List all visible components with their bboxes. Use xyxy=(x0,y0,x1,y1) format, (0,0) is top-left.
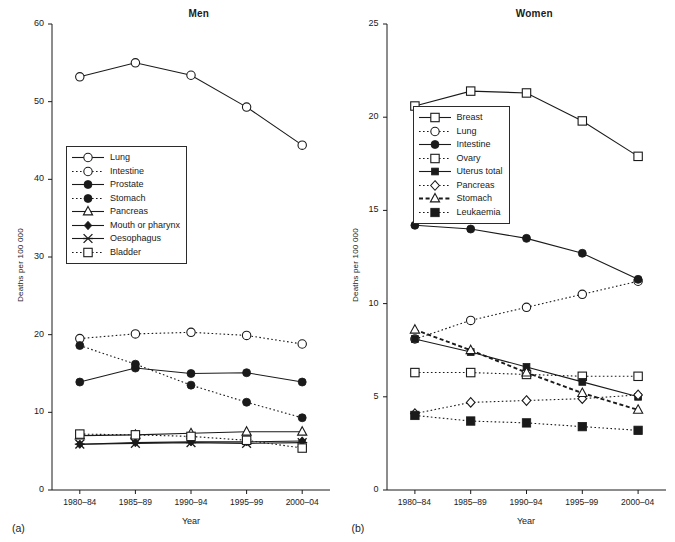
legend-item: Ovary xyxy=(418,152,503,166)
y-tick-label: 0 xyxy=(18,484,44,494)
y-axis-label-men: Deaths per 100 000 xyxy=(16,228,25,302)
legend-label: Mouth or pharynx xyxy=(105,221,180,230)
legend-swatch-icon xyxy=(71,232,105,245)
legend-item: Pancreas xyxy=(418,179,503,193)
legend-men: LungIntestineProstateStomachPancreasMout… xyxy=(66,146,187,264)
legend-swatch-icon xyxy=(71,151,105,164)
panel-women: Women Deaths per 100 000 Year BreastLung… xyxy=(338,0,675,542)
x-tick-label: 1990–94 xyxy=(498,497,554,507)
y-tick-label: 20 xyxy=(353,111,379,121)
legend-swatch-icon xyxy=(418,206,452,219)
legend-item: Prostate xyxy=(71,178,180,192)
legend-swatch-icon xyxy=(418,152,452,165)
x-tick-label: 1995–99 xyxy=(219,497,275,507)
legend-label: Stomach xyxy=(452,194,493,203)
y-tick-label: 25 xyxy=(353,18,379,28)
legend-label: Oesophagus xyxy=(105,234,161,243)
legend-label: Bladder xyxy=(105,248,141,257)
x-axis-label-women: Year xyxy=(486,516,566,526)
legend-swatch-icon xyxy=(418,179,452,192)
legend-label: Intestine xyxy=(452,140,491,149)
legend-label: Lung xyxy=(452,127,477,136)
legend-label: Lung xyxy=(105,153,130,162)
legend-label: Leukaemia xyxy=(452,208,501,217)
x-tick-label: 2000–04 xyxy=(610,497,666,507)
legend-swatch-icon xyxy=(71,246,105,259)
panel-men: Men Deaths per 100 000 Year LungIntestin… xyxy=(0,0,338,542)
legend-item: Bladder xyxy=(71,246,180,260)
y-tick-label: 30 xyxy=(18,251,44,261)
panel-tag-a: (a) xyxy=(12,522,25,534)
y-tick-label: 60 xyxy=(18,18,44,28)
legend-women: BreastLungIntestineOvaryUterus totalPanc… xyxy=(413,106,510,224)
legend-item: Stomach xyxy=(418,192,503,206)
y-tick-label: 15 xyxy=(353,204,379,214)
legend-swatch-icon xyxy=(71,192,105,205)
x-tick-label: 1980–84 xyxy=(52,497,108,507)
panel-tag-b: (b) xyxy=(352,522,365,534)
legend-item: Breast xyxy=(418,111,503,125)
legend-swatch-icon xyxy=(418,165,452,178)
y-tick-label: 20 xyxy=(18,329,44,339)
y-tick-label: 5 xyxy=(353,391,379,401)
legend-swatch-icon xyxy=(71,219,105,232)
plot-area-women xyxy=(338,0,675,542)
legend-item: Mouth or pharynx xyxy=(71,219,180,233)
legend-item: Stomach xyxy=(71,192,180,206)
y-tick-label: 10 xyxy=(18,406,44,416)
legend-swatch-icon xyxy=(418,111,452,124)
legend-label: Intestine xyxy=(105,167,144,176)
legend-item: Leukaemia xyxy=(418,206,503,220)
legend-swatch-icon xyxy=(71,165,105,178)
x-tick-label: 1990–94 xyxy=(163,497,219,507)
figure-container: Men Deaths per 100 000 Year LungIntestin… xyxy=(0,0,675,542)
legend-swatch-icon xyxy=(418,138,452,151)
legend-swatch-icon xyxy=(418,192,452,205)
x-tick-label: 1995–99 xyxy=(554,497,610,507)
x-axis-label-men: Year xyxy=(151,516,231,526)
legend-item: Lung xyxy=(71,151,180,165)
legend-item: Intestine xyxy=(71,165,180,179)
legend-label: Stomach xyxy=(105,194,146,203)
legend-swatch-icon xyxy=(418,125,452,138)
legend-item: Oesophagus xyxy=(71,232,180,246)
y-axis-label-women: Deaths per 100 000 xyxy=(351,228,360,302)
legend-label: Pancreas xyxy=(452,181,495,190)
legend-label: Breast xyxy=(452,113,483,122)
legend-label: Uterus total xyxy=(452,167,503,176)
y-tick-label: 0 xyxy=(353,484,379,494)
legend-label: Ovary xyxy=(452,154,481,163)
x-tick-label: 2000–04 xyxy=(274,497,330,507)
legend-label: Pancreas xyxy=(105,207,148,216)
legend-item: Uterus total xyxy=(418,165,503,179)
y-tick-label: 10 xyxy=(353,298,379,308)
x-tick-label: 1985–89 xyxy=(442,497,498,507)
plot-area-men xyxy=(0,0,338,542)
legend-swatch-icon xyxy=(71,205,105,218)
legend-item: Lung xyxy=(418,125,503,139)
y-tick-label: 40 xyxy=(18,173,44,183)
y-tick-label: 50 xyxy=(18,96,44,106)
legend-item: Intestine xyxy=(418,138,503,152)
legend-swatch-icon xyxy=(71,178,105,191)
x-tick-label: 1980–84 xyxy=(386,497,442,507)
legend-label: Prostate xyxy=(105,180,144,189)
x-tick-label: 1985–89 xyxy=(107,497,163,507)
legend-item: Pancreas xyxy=(71,205,180,219)
